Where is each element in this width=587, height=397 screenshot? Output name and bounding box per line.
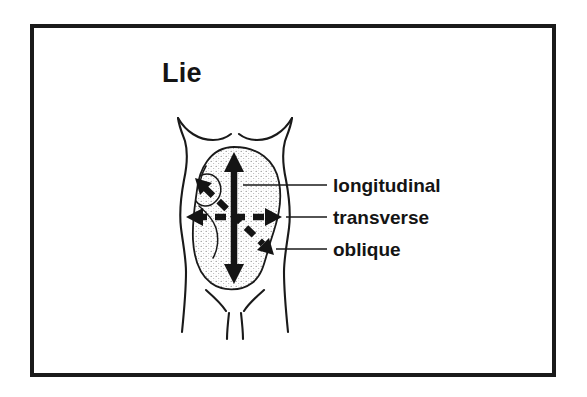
label-oblique: oblique <box>333 240 401 259</box>
page-title: Lie <box>162 60 202 87</box>
label-transverse: transverse <box>333 208 429 227</box>
label-longitudinal: longitudinal <box>333 176 441 195</box>
lie-diagram-illustration <box>0 0 587 397</box>
figure-root: Lie longitudinal transverse oblique <box>0 0 587 397</box>
